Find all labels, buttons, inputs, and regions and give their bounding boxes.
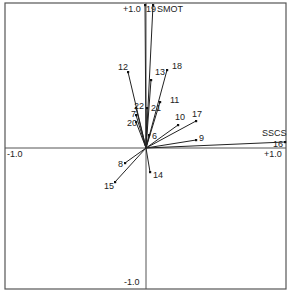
vector-label: 15	[104, 181, 114, 191]
vector-endpoint	[284, 141, 286, 143]
vector-endpoint	[149, 171, 151, 173]
vector-endpoint	[124, 162, 126, 164]
vector-label: 6	[152, 131, 157, 141]
biplot: 19SMOT121318112122720101769SSCS1681514 +…	[0, 0, 294, 293]
axis-label-top: +1.0	[123, 4, 141, 14]
vector-label: 16	[273, 139, 283, 149]
vector-label: 11	[170, 95, 179, 105]
vector-label: 18	[172, 61, 182, 71]
vector-line	[125, 148, 146, 163]
vector-endpoint	[195, 139, 197, 141]
vector-endpoint	[114, 181, 116, 183]
vector-group	[114, 4, 286, 183]
vector-label: 17	[192, 109, 202, 119]
axis-label-right: +1.0	[264, 149, 282, 159]
vector-label: 8	[118, 159, 123, 169]
vector-label: SSCS	[262, 128, 287, 138]
vector-label: 14	[153, 170, 163, 180]
vector-label: 12	[118, 62, 128, 72]
vector-endpoint	[150, 79, 152, 81]
vector-label: SMOT	[157, 4, 184, 14]
vector-label: 10	[175, 112, 185, 122]
axis-label-bottom: -1.0	[124, 277, 140, 287]
axis-label-left: -1.0	[7, 149, 23, 159]
vector-label: 19	[146, 4, 156, 14]
vector-endpoint	[195, 120, 197, 122]
vector-endpoint	[166, 69, 168, 71]
vector-endpoint	[177, 124, 179, 126]
vector-label: 9	[199, 133, 204, 143]
vector-endpoint	[148, 134, 150, 136]
vector-label: 13	[155, 67, 165, 77]
vector-line	[146, 148, 150, 172]
vector-label: 20	[127, 118, 137, 128]
vector-label: 21	[151, 103, 161, 113]
vector-endpoint	[146, 107, 148, 109]
vector-labels: 19SMOT121318112122720101769SSCS1681514	[104, 4, 287, 191]
